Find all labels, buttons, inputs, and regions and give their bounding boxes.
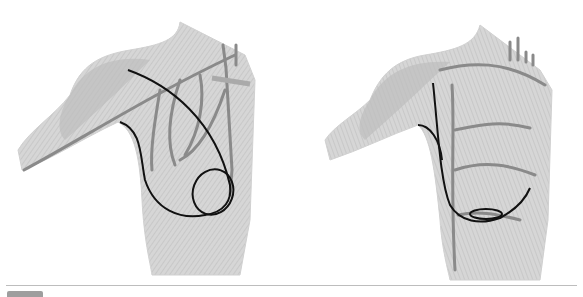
chest-illustration-right <box>290 0 583 282</box>
anatomy-panel-right <box>290 0 583 282</box>
figure-label-tab <box>7 291 43 297</box>
chest-illustration-left <box>0 0 290 282</box>
anatomy-panel-left <box>0 0 290 282</box>
footer-divider <box>6 285 577 286</box>
